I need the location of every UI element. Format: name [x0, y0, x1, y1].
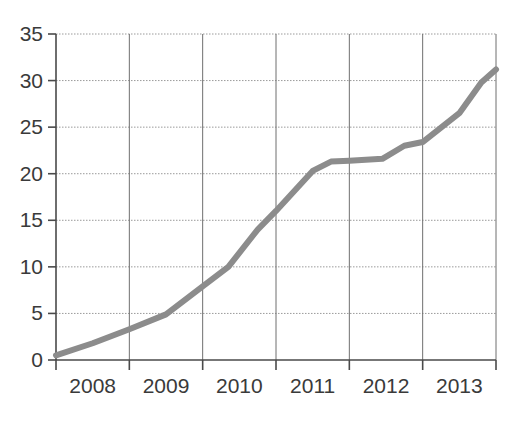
x-tick-label-2012: 2012 — [363, 374, 410, 398]
x-tick-label-2008: 2008 — [69, 374, 116, 398]
x-tick-label-2009: 2009 — [143, 374, 190, 398]
plot-area — [0, 0, 524, 423]
y-tick-label-35: 35 — [20, 22, 43, 46]
y-axis-ticks — [48, 34, 56, 360]
y-tick-label-10: 10 — [20, 255, 43, 279]
y-tick-label-25: 25 — [20, 115, 43, 139]
y-tick-label-15: 15 — [20, 208, 43, 232]
vertical-gridlines — [129, 34, 496, 360]
x-axis-ticks — [56, 360, 496, 370]
y-tick-label-5: 5 — [31, 301, 43, 325]
y-tick-label-0: 0 — [31, 348, 43, 372]
x-tick-label-2013: 2013 — [436, 374, 483, 398]
line-chart: 05101520253035 200820092010201120122013 — [0, 0, 524, 423]
y-tick-label-20: 20 — [20, 162, 43, 186]
x-tick-label-2010: 2010 — [216, 374, 263, 398]
x-tick-label-2011: 2011 — [290, 374, 335, 398]
y-tick-label-30: 30 — [20, 69, 43, 93]
